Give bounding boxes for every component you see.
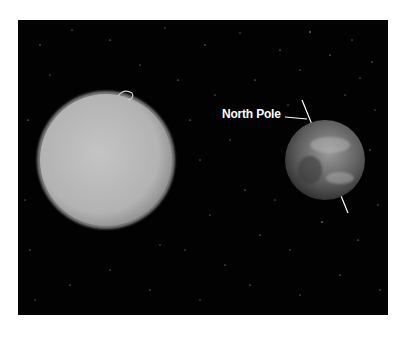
space-background xyxy=(18,20,388,315)
scene-illustration xyxy=(18,20,388,315)
earth xyxy=(285,120,365,200)
north-pole-label: North Pole xyxy=(222,107,281,121)
label-leader-line xyxy=(285,117,307,119)
sun xyxy=(37,91,175,229)
